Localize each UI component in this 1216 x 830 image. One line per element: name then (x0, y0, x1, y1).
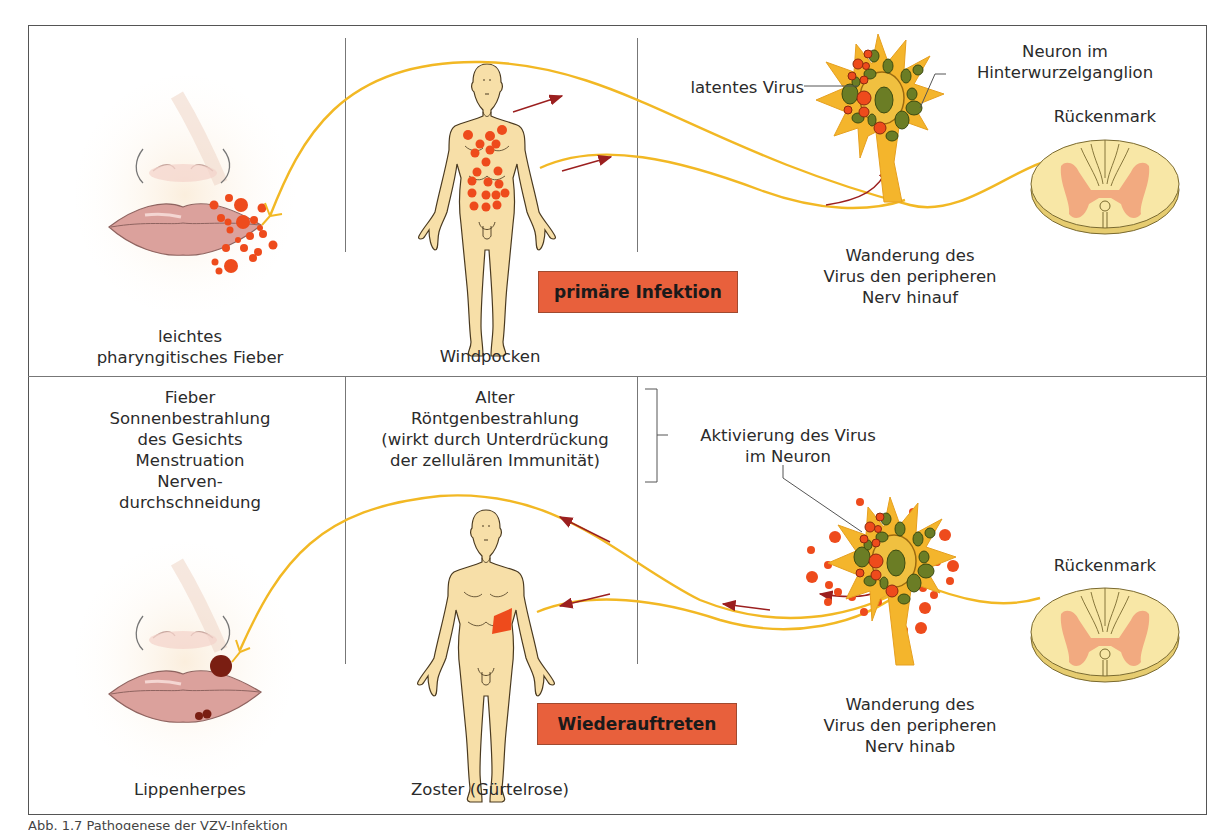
bracket-triggers (645, 389, 668, 482)
body-windpocken-illustration (419, 64, 556, 356)
scab-large (210, 655, 232, 677)
label-spinal-cord-bottom: Rückenmark (1030, 555, 1180, 576)
spinal-cord-bottom (1031, 588, 1179, 682)
spinal-cord-top (1031, 140, 1179, 234)
label-activation: Aktivierung des Virus im Neuron (668, 425, 908, 467)
stage-label-primary: primäre Infektion (538, 271, 738, 313)
label-latent-virus: latentes Virus (680, 77, 804, 98)
label-migration-down: Wanderung des Virus den peripheren Nerv … (790, 694, 1030, 757)
caption-windpocken: Windpocken (410, 346, 570, 367)
stage-label-recurrence: Wiederauftreten (537, 703, 737, 745)
arrows-ascending (513, 96, 888, 205)
face-recurrence-illustration (75, 542, 295, 782)
nerve-fibers-top (262, 62, 1050, 225)
caption-zoster: Zoster (Gürtelrose) (380, 779, 600, 800)
label-neuron-ganglion: Neuron im Hinterwurzelganglion (945, 41, 1185, 83)
triggers-list-left: Fieber Sonnenbestrahlung des Gesichts Me… (60, 387, 320, 513)
figure-caption: Abb. 1.7 Pathogenese der VZV-Infektion (28, 818, 288, 830)
neuron-latent (816, 34, 944, 202)
label-spinal-cord-top: Rückenmark (1030, 106, 1180, 127)
body-zoster-illustration (418, 510, 555, 802)
caption-lippenherpes: Lippenherpes (90, 779, 290, 800)
label-migration-up: Wanderung des Virus den peripheren Nerv … (790, 245, 1030, 308)
caption-pharyngitis: leichtes pharyngitisches Fieber (60, 326, 320, 368)
triggers-list-middle: Alter Röntgenbestrahlung (wirkt durch Un… (360, 387, 630, 471)
face-primary-illustration (75, 75, 295, 315)
leader-activation (783, 465, 862, 532)
